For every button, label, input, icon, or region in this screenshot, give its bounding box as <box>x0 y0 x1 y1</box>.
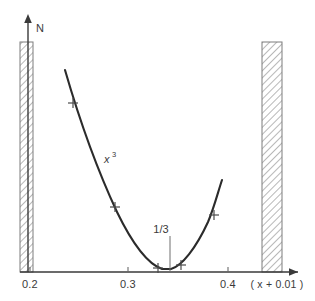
left-hatched-band <box>20 42 33 272</box>
x-tick-label-2: 0.3 <box>120 278 136 290</box>
plot-canvas: N x 3 1/3 0.2 0.3 0.4 ( x + 0.01 ) <box>0 0 315 301</box>
minimum-annotation-label: 1/3 <box>153 223 168 235</box>
x-axis-arrowhead <box>289 268 298 276</box>
y-axis-arrowhead <box>24 14 32 23</box>
y-axis-label: N <box>36 22 44 34</box>
x-axis-caption: ( x + 0.01 ) <box>251 278 304 290</box>
curve-label: x <box>103 153 110 165</box>
figure-root: N x 3 1/3 0.2 0.3 0.4 ( x + 0.01 ) <box>0 0 315 301</box>
data-point-markers <box>68 98 219 273</box>
x-tick-label-1: 0.2 <box>22 278 38 290</box>
data-curve <box>65 70 222 269</box>
data-point-marker <box>110 202 120 212</box>
right-hatched-band <box>262 42 282 272</box>
data-point-marker <box>176 260 186 270</box>
curve-label-exponent: 3 <box>112 150 116 159</box>
x-tick-label-3: 0.4 <box>220 278 236 290</box>
